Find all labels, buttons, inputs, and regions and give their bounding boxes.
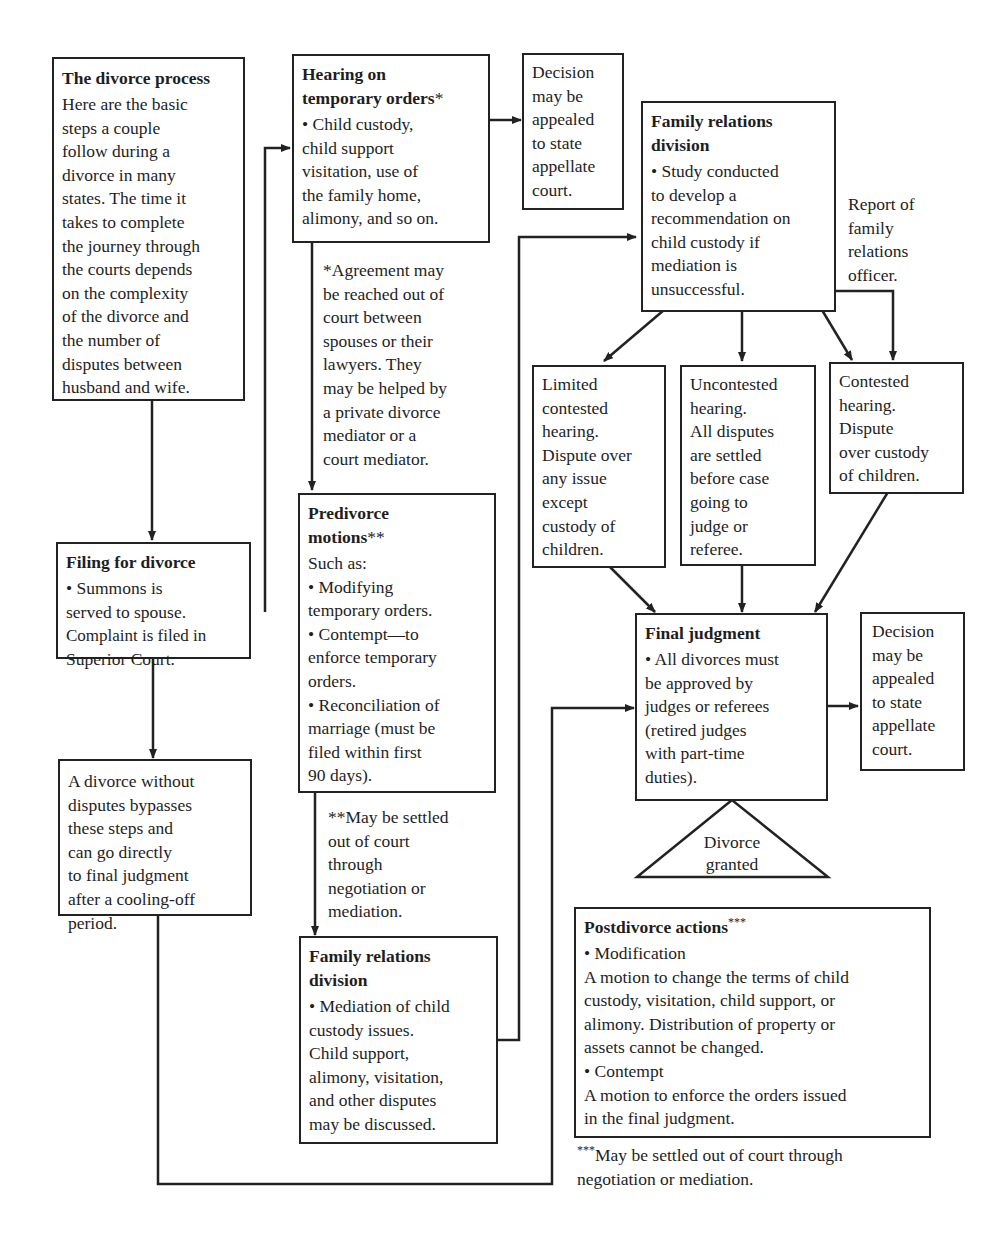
final-judgment-box: Final judgment • All divorces must be ap… (635, 613, 828, 801)
appeal-box-final: Decision may be appealed to state appell… (860, 612, 965, 771)
appeal-box-top: Decision may be appealed to state appell… (522, 53, 624, 210)
intro-box: The divorce process Here are the basic s… (52, 57, 245, 401)
intro-text: Here are the basic steps a couple follow… (62, 93, 235, 400)
intro-title: The divorce process (62, 66, 235, 90)
hearing-box: Hearing on temporary orders* • Child cus… (292, 54, 490, 243)
family-mediation-title: Family relations division (309, 944, 490, 992)
predivorce-box: Predivorce motions** Such as: • Modifyin… (298, 493, 496, 793)
no-disputes-box: A divorce without disputes bypasses thes… (58, 759, 252, 916)
filing-box: Filing for divorce • Summons is served t… (56, 542, 251, 659)
divorce-granted-label: Divorce granted (682, 831, 782, 875)
hearing-title: Hearing on temporary orders* (302, 62, 482, 110)
postdivorce-footnote: ***May be settled out of court through n… (577, 1144, 843, 1191)
postdivorce-box: Postdivorce actions*** • Modification A … (574, 907, 931, 1138)
contested-box: Contested hearing. Dispute over custody … (829, 362, 964, 494)
predivorce-title: Predivorce motions** (308, 501, 488, 549)
filing-title: Filing for divorce (66, 550, 243, 574)
family-study-box: Family relations division • Study conduc… (641, 101, 836, 312)
uncontested-box: Uncontested hearing. All disputes are se… (680, 365, 816, 566)
family-mediation-box: Family relations division • Mediation of… (299, 936, 498, 1144)
limited-contested-box: Limited contested hearing. Dispute over … (532, 365, 666, 568)
report-note: Report of family relations officer. (848, 193, 915, 287)
hearing-footnote: *Agreement may be reached out of court b… (323, 259, 447, 471)
postdivorce-title: Postdivorce actions*** (584, 915, 921, 939)
family-study-title: Family relations division (651, 109, 828, 157)
predivorce-footnote: **May be settled out of court through ne… (328, 806, 449, 924)
final-judgment-title: Final judgment (645, 621, 820, 645)
